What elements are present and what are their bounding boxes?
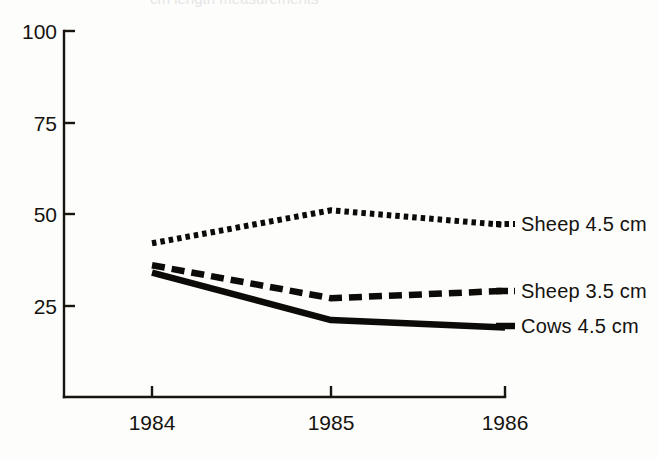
x-tick-labels: 1984 1985 1986 <box>129 411 529 434</box>
line-chart-canvas: 100 75 50 25 1984 1985 1986 Sheep 4.5 cm <box>0 0 659 459</box>
y-tick-label-100: 100 <box>22 20 57 43</box>
series-line-cows-4-5-cm <box>152 273 505 328</box>
data-series-group <box>152 210 505 327</box>
y-axis <box>64 31 75 397</box>
legend-label-sheep-4-5-cm: Sheep 4.5 cm <box>521 213 647 235</box>
legend-label-sheep-3-5-cm: Sheep 3.5 cm <box>521 280 647 302</box>
y-tick-label-75: 75 <box>34 112 57 135</box>
x-axis <box>64 386 505 397</box>
chart-figure: cm length measurements 100 75 50 25 1984… <box>0 0 659 459</box>
x-tick-label-1985: 1985 <box>308 411 355 434</box>
series-line-sheep-3-5-cm <box>152 265 505 298</box>
x-tick-label-1986: 1986 <box>482 411 529 434</box>
legend: Sheep 4.5 cm Sheep 3.5 cm Cows 4.5 cm <box>496 213 647 337</box>
y-tick-label-25: 25 <box>34 295 57 318</box>
y-tick-labels: 100 75 50 25 <box>22 20 57 318</box>
x-tick-label-1984: 1984 <box>129 411 176 434</box>
series-line-sheep-4-5-cm <box>152 210 505 243</box>
y-tick-label-50: 50 <box>34 203 57 226</box>
legend-label-cows-4-5-cm: Cows 4.5 cm <box>521 315 639 337</box>
